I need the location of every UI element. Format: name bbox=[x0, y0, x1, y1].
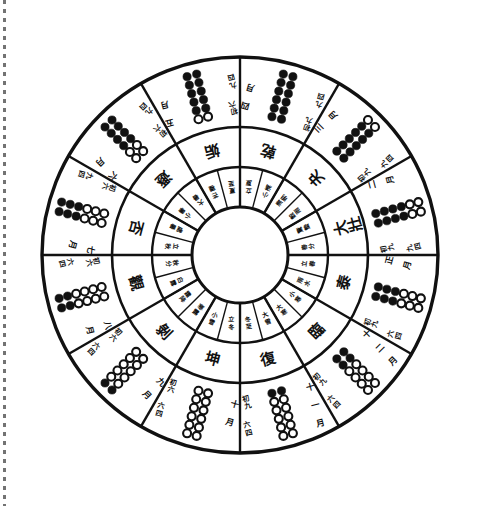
sector-觀[interactable]: 八月初六六四觀白露秋分 bbox=[55, 255, 194, 336]
term-subdivider-11 bbox=[217, 301, 227, 340]
hex-line-marker-姤-6-2 bbox=[193, 70, 201, 78]
hex-line-marker-乾-3-2 bbox=[282, 98, 290, 106]
sector-乾[interactable]: 四月初九九四乾立夏小滿 bbox=[240, 70, 327, 213]
hex-line-marker-乾-5-1 bbox=[277, 79, 285, 87]
term-subdivider-5 bbox=[252, 170, 262, 209]
hex-line-marker-臨-6-1 bbox=[371, 379, 379, 387]
month-label-否: 七月 bbox=[66, 238, 96, 256]
hex-line-marker-觀-3-1 bbox=[83, 297, 91, 305]
term-subdivider-3 bbox=[286, 232, 325, 242]
hex-line-marker-夬-3-1 bbox=[345, 135, 353, 143]
line-name-遯-1: 初六 bbox=[151, 122, 169, 140]
hex-line-marker-夬-4-1 bbox=[351, 128, 359, 136]
hex-line-marker-觀-5-2 bbox=[64, 292, 72, 300]
hex-line-marker-夬-6-1 bbox=[364, 116, 372, 124]
hex-line-marker-泰-1-1 bbox=[374, 283, 382, 291]
hex-line-marker-乾-3-1 bbox=[272, 96, 280, 104]
hex-line-marker-泰-5-2 bbox=[406, 302, 414, 310]
hex-line-marker-姤-6-1 bbox=[183, 73, 191, 81]
hexagram-name-否: 否 bbox=[125, 217, 147, 237]
hex-line-marker-乾-5-2 bbox=[287, 81, 295, 89]
hex-line-marker-復-2-2 bbox=[270, 398, 278, 406]
hex-line-marker-坤-2-1 bbox=[202, 398, 210, 406]
line-name-坤-4: 六四 bbox=[154, 400, 166, 418]
hex-line-marker-觀-3-2 bbox=[81, 288, 89, 296]
hex-line-marker-遯-3-2 bbox=[127, 135, 135, 143]
hex-line-marker-大壯-3-2 bbox=[391, 214, 399, 222]
hex-line-marker-遯-4-2 bbox=[120, 128, 128, 136]
solar-term-立秋: 立秋 bbox=[164, 241, 180, 251]
hex-line-marker-姤-2-1 bbox=[192, 107, 200, 115]
wheel-svg: 十一月初九六四復大雪冬至十二月初九六四臨小寒大寒正月初九六四泰立春雨水二月初九九… bbox=[0, 0, 484, 506]
hex-line-marker-觀-1-1 bbox=[100, 293, 108, 301]
hex-line-marker-夬-4-2 bbox=[358, 135, 366, 143]
hex-line-marker-姤-2-2 bbox=[202, 104, 210, 112]
hex-line-marker-復-1-2 bbox=[268, 389, 276, 397]
hex-line-marker-大壯-2-2 bbox=[383, 217, 391, 225]
hex-line-marker-否-1-1 bbox=[98, 219, 106, 227]
hex-line-marker-坤-4-1 bbox=[197, 415, 205, 423]
sector-坤[interactable]: 十月初六六四坤立冬小雪 bbox=[154, 297, 240, 440]
sector-泰[interactable]: 正月初九六四泰立春雨水 bbox=[282, 255, 425, 341]
solar-term-芒種: 芒種 bbox=[207, 184, 219, 201]
hex-line-marker-坤-5-2 bbox=[185, 421, 193, 429]
hex-line-marker-觀-4-1 bbox=[75, 299, 83, 307]
hexagram-name-大壯: 大壯 bbox=[331, 215, 366, 238]
hex-line-marker-坤-6-1 bbox=[193, 432, 201, 440]
hex-line-marker-大壯-1-1 bbox=[372, 209, 380, 217]
hex-line-marker-乾-6-1 bbox=[279, 70, 287, 78]
hex-line-marker-大壯-4-2 bbox=[400, 212, 408, 220]
line-name-姤-4: 九四 bbox=[226, 72, 239, 91]
term-subdivider-0 bbox=[252, 301, 262, 340]
solar-term-小雪: 小雪 bbox=[207, 310, 220, 327]
hex-line-marker-大壯-3-1 bbox=[389, 205, 397, 213]
hex-line-marker-剝-5-2 bbox=[107, 373, 115, 381]
hex-line-marker-觀-6-2 bbox=[55, 294, 63, 302]
hex-line-marker-泰-3-2 bbox=[389, 297, 397, 305]
hex-line-marker-泰-3-1 bbox=[391, 287, 399, 295]
hex-line-marker-復-2-1 bbox=[280, 395, 288, 403]
term-subdivider-8 bbox=[155, 232, 194, 242]
hex-line-marker-泰-2-1 bbox=[383, 285, 391, 293]
hexagram-name-遯: 遯 bbox=[152, 167, 175, 190]
hex-line-marker-臨-1-2 bbox=[333, 355, 341, 363]
hex-line-marker-姤-4-2 bbox=[197, 87, 205, 95]
hexagram-name-乾: 乾 bbox=[258, 140, 277, 161]
hex-line-marker-泰-6-2 bbox=[414, 304, 422, 312]
sector-否[interactable]: 七月初六九四否立秋處暑 bbox=[55, 168, 198, 255]
hex-line-marker-遯-6-2 bbox=[108, 116, 116, 124]
hex-line-marker-復-4-2 bbox=[275, 415, 283, 423]
hex-line-marker-泰-5-1 bbox=[408, 292, 416, 300]
line-name-大壯-4: 九四 bbox=[404, 241, 423, 254]
sector-姤[interactable]: 五月初六九四姤芒種夏至 bbox=[159, 70, 240, 209]
hex-line-marker-復-6-1 bbox=[289, 429, 297, 437]
hex-line-marker-剝-6-2 bbox=[101, 379, 109, 387]
hex-line-marker-剝-5-1 bbox=[114, 380, 122, 388]
hex-line-marker-遯-3-1 bbox=[120, 142, 128, 150]
line-name-泰-4: 六四 bbox=[385, 328, 403, 340]
hex-line-marker-姤-3-1 bbox=[190, 98, 198, 106]
hex-line-marker-否-4-2 bbox=[75, 203, 83, 211]
hex-line-marker-大壯-5-1 bbox=[406, 200, 414, 208]
month-label-泰: 正月 bbox=[384, 255, 413, 273]
hex-line-marker-大壯-1-2 bbox=[374, 219, 382, 227]
hex-line-marker-乾-1-2 bbox=[277, 115, 285, 123]
hex-line-marker-夬-1-2 bbox=[340, 154, 348, 162]
hex-line-marker-復-5-2 bbox=[277, 423, 285, 431]
hex-line-marker-乾-6-2 bbox=[289, 73, 297, 81]
solar-term-白露: 白露 bbox=[169, 276, 186, 288]
hexagram-name-泰: 泰 bbox=[333, 272, 355, 293]
line-name-觀-1: 初六 bbox=[84, 256, 102, 268]
hex-line-marker-否-2-2 bbox=[92, 207, 100, 215]
sector-dividers bbox=[42, 57, 438, 453]
sector-大壯[interactable]: 二月初九九四大壯驚蟄春分 bbox=[286, 174, 425, 255]
page-canvas: 十一月初九六四復大雪冬至十二月初九六四臨小寒大寒正月初九六四泰立春雨水二月初九九… bbox=[0, 0, 484, 506]
month-label-坤: 十月 bbox=[223, 398, 241, 428]
hex-line-marker-遯-6-1 bbox=[101, 123, 109, 131]
hex-line-marker-遯-5-1 bbox=[107, 129, 115, 137]
hex-line-marker-姤-3-2 bbox=[199, 96, 207, 104]
month-label-乾: 四月 bbox=[240, 81, 258, 110]
hex-line-marker-泰-2-2 bbox=[380, 295, 388, 303]
solar-term-大雪: 大雪 bbox=[261, 310, 273, 327]
hexagram-name-觀: 觀 bbox=[125, 273, 146, 292]
